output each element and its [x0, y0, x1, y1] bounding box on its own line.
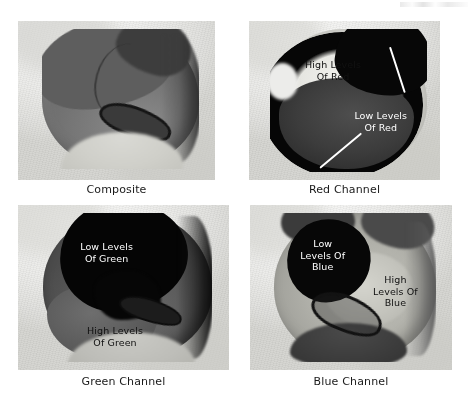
panel-composite-image: [18, 21, 215, 180]
green-right-rim: [177, 216, 212, 359]
annotation-high-levels-of-green: High Levels Of Green: [64, 325, 165, 348]
red-specimen: [270, 29, 427, 172]
composite-specimen: [42, 29, 200, 169]
annotation-low-levels-of-blue: Low Levels Of Blue: [282, 238, 363, 273]
channel-comparison-figure: Composite High Levels Of Red Low Levels …: [0, 0, 474, 402]
scan-artifact: [400, 2, 468, 7]
annotation-high-levels-of-blue: High Levels Of Blue: [355, 274, 436, 309]
caption-composite: Composite: [18, 183, 215, 196]
panel-blue-channel-image: Low Levels Of Blue High Levels Of Blue: [250, 205, 452, 370]
caption-blue-channel: Blue Channel: [250, 375, 452, 388]
caption-red-channel: Red Channel: [249, 183, 440, 196]
panel-green-channel-image: Low Levels Of Green High Levels Of Green: [18, 205, 229, 370]
panel-red-channel-image: High Levels Of Red Low Levels Of Red: [249, 21, 440, 180]
annotation-low-levels-of-green: Low Levels Of Green: [56, 241, 157, 264]
annotation-low-levels-of-red: Low Levels Of Red: [333, 110, 429, 133]
caption-green-channel: Green Channel: [18, 375, 229, 388]
annotation-high-levels-of-red: High Levels Of Red: [287, 59, 379, 82]
